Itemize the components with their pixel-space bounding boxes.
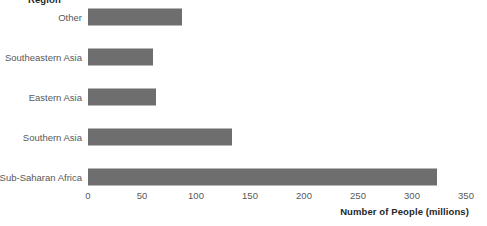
x-axis-tick-label: 50 <box>137 190 148 201</box>
x-axis-tick-label: 250 <box>350 190 366 201</box>
bar[interactable] <box>88 89 156 106</box>
bar[interactable] <box>88 49 153 66</box>
x-axis-tick-label: 350 <box>458 190 474 201</box>
category-label: Southern Asia <box>23 132 82 143</box>
bar-row: Eastern Asia <box>0 80 487 114</box>
x-axis-tick-label: 150 <box>242 190 258 201</box>
category-label: Eastern Asia <box>29 92 82 103</box>
bar[interactable] <box>88 169 437 186</box>
x-axis-title: Number of People (millions) <box>340 206 469 217</box>
x-axis-tick-label: 200 <box>296 190 312 201</box>
x-axis-tick-label: 100 <box>188 190 204 201</box>
x-axis-tick-label: 0 <box>85 190 90 201</box>
bar[interactable] <box>88 129 232 146</box>
category-label: Sub-Saharan Africa <box>0 172 82 183</box>
bar-row: Sub-Saharan Africa <box>0 160 487 194</box>
x-axis-tick-label: 300 <box>404 190 420 201</box>
bar[interactable] <box>88 9 182 26</box>
bar-row: Southern Asia <box>0 120 487 154</box>
bar-row: Southeastern Asia <box>0 40 487 74</box>
category-label: Other <box>58 12 82 23</box>
bar-chart: Region OtherSoutheastern AsiaEastern Asi… <box>0 0 487 226</box>
category-label: Southeastern Asia <box>5 52 82 63</box>
bar-row: Other <box>0 0 487 34</box>
x-axis: 050100150200250300350 <box>0 190 487 206</box>
